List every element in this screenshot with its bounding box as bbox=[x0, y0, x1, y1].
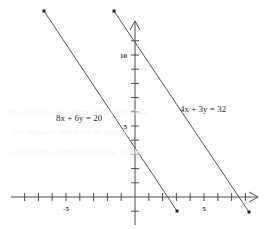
x-tick-label-neg5: -5 bbox=[63, 205, 69, 213]
equation-label-line2: 4x + 3y = 32 bbox=[180, 104, 226, 114]
coordinate-plane: -5 5 10 5 bbox=[0, 0, 265, 229]
line-8x-6y-20 bbox=[43, 10, 179, 213]
equation-label-line1: 8x + 6y = 20 bbox=[56, 113, 103, 123]
graph-figure: the solution to the system is the point … bbox=[0, 0, 265, 229]
y-axis: 10 5 bbox=[120, 21, 140, 225]
y-tick-label-10: 10 bbox=[120, 52, 128, 60]
x-tick-label-5: 5 bbox=[202, 205, 206, 213]
y-tick-label-5: 5 bbox=[124, 123, 128, 131]
